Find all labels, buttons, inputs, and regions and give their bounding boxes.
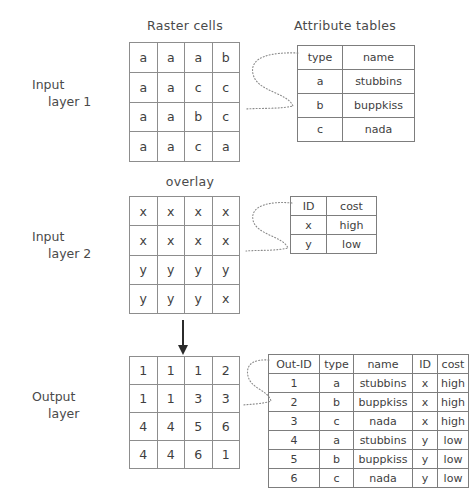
raster-cell: x bbox=[185, 197, 213, 226]
heading-raster-cells: Raster cells bbox=[125, 18, 245, 33]
table-row: astubbins bbox=[298, 70, 415, 94]
raster-cell: a bbox=[158, 43, 186, 73]
label-input-layer-2-line1: Input bbox=[32, 229, 64, 244]
raster-cell: c bbox=[185, 132, 213, 162]
raster-cell: a bbox=[213, 132, 241, 162]
table-cell: low bbox=[438, 450, 469, 469]
table-cell: c bbox=[320, 412, 354, 431]
raster-cell: y bbox=[158, 285, 186, 314]
overlay-arrow-shaft bbox=[182, 320, 184, 348]
table-row: 4astubbinsylow bbox=[269, 431, 469, 450]
table-row: 5bbuppkissylow bbox=[269, 450, 469, 469]
raster-cell: 3 bbox=[185, 385, 213, 413]
raster-cell: a bbox=[158, 132, 186, 162]
table-header-cell: Out-ID bbox=[269, 355, 320, 374]
connector-curve-output-layer bbox=[242, 357, 272, 413]
heading-attribute-tables: Attribute tables bbox=[281, 18, 409, 33]
raster-cell: b bbox=[213, 43, 241, 73]
table-cell: b bbox=[320, 450, 354, 469]
raster-cell: 1 bbox=[185, 357, 213, 385]
table-header-cell: cost bbox=[327, 197, 377, 216]
raster-cell: 1 bbox=[158, 357, 186, 385]
table-row: bbuppkiss bbox=[298, 94, 415, 118]
label-input-layer-2-line2: layer 2 bbox=[32, 245, 91, 262]
raster-cell: x bbox=[213, 226, 241, 255]
connector-curve-layer-1 bbox=[243, 48, 301, 116]
raster-cell: x bbox=[158, 226, 186, 255]
table-header-cell: type bbox=[320, 355, 354, 374]
table-header-cell: cost bbox=[438, 355, 469, 374]
table-cell: a bbox=[320, 374, 354, 393]
raster-cell: y bbox=[185, 285, 213, 314]
overlay-arrow-head bbox=[178, 345, 188, 355]
table-row: 6cnadaylow bbox=[269, 469, 469, 488]
label-input-layer-1: Input layer 1 bbox=[32, 76, 91, 110]
label-input-layer-1-line2: layer 1 bbox=[32, 93, 91, 110]
raster-cell: y bbox=[130, 285, 158, 314]
table-cell: x bbox=[413, 374, 438, 393]
table-cell: y bbox=[413, 431, 438, 450]
raster-cell: x bbox=[158, 197, 186, 226]
table-cell: buppkiss bbox=[354, 450, 413, 469]
raster-cell: y bbox=[158, 256, 186, 285]
label-output-layer: Output layer bbox=[32, 388, 79, 422]
table-row: 1astubbinsxhigh bbox=[269, 374, 469, 393]
raster-cell: 6 bbox=[213, 413, 241, 441]
table-row: xhigh bbox=[291, 216, 377, 235]
raster-cell: y bbox=[213, 256, 241, 285]
table-cell: y bbox=[291, 235, 327, 254]
raster-cell: c bbox=[185, 73, 213, 103]
raster-grid-input-layer-2: xxxxxxxxyyyyyyyx bbox=[129, 196, 240, 314]
table-cell: low bbox=[438, 431, 469, 450]
raster-cell: 5 bbox=[185, 413, 213, 441]
raster-cell: y bbox=[130, 256, 158, 285]
label-output-layer-line2: layer bbox=[32, 405, 79, 422]
raster-cell: 1 bbox=[130, 357, 158, 385]
table-cell: 4 bbox=[269, 431, 320, 450]
table-row: 2bbuppkissxhigh bbox=[269, 393, 469, 412]
raster-cell: a bbox=[158, 103, 186, 133]
raster-cell: y bbox=[185, 256, 213, 285]
raster-cell: x bbox=[130, 197, 158, 226]
attribute-table-output-layer: Out-IDtypenameIDcost1astubbinsxhigh2bbup… bbox=[268, 354, 469, 488]
table-header-row: IDcost bbox=[291, 197, 377, 216]
raster-cell: a bbox=[130, 43, 158, 73]
table-cell: buppkiss bbox=[354, 393, 413, 412]
table-cell: 6 bbox=[269, 469, 320, 488]
table-cell: 1 bbox=[269, 374, 320, 393]
label-input-layer-1-line1: Input bbox=[32, 77, 64, 92]
table-cell: b bbox=[298, 94, 343, 118]
table-cell: nada bbox=[343, 118, 415, 142]
raster-cell: x bbox=[185, 226, 213, 255]
raster-cell: c bbox=[213, 103, 241, 133]
raster-cell: a bbox=[158, 73, 186, 103]
table-cell: x bbox=[413, 412, 438, 431]
table-cell: stubbins bbox=[354, 374, 413, 393]
table-cell: a bbox=[320, 431, 354, 450]
table-cell: x bbox=[413, 393, 438, 412]
raster-cell: x bbox=[213, 197, 241, 226]
raster-cell: 4 bbox=[158, 441, 186, 469]
table-header-cell: ID bbox=[413, 355, 438, 374]
attribute-table-input-layer-1: typenameastubbinsbbuppkisscnada bbox=[297, 45, 415, 142]
raster-cell: 3 bbox=[213, 385, 241, 413]
raster-cell: b bbox=[185, 103, 213, 133]
raster-cell: 4 bbox=[158, 413, 186, 441]
raster-cell: a bbox=[130, 73, 158, 103]
raster-cell: x bbox=[213, 285, 241, 314]
table-header-cell: ID bbox=[291, 197, 327, 216]
table-row: 3cnadaxhigh bbox=[269, 412, 469, 431]
table-cell: x bbox=[291, 216, 327, 235]
raster-cell: 2 bbox=[213, 357, 241, 385]
table-cell: low bbox=[327, 235, 377, 254]
raster-grid-input-layer-1: aaabaaccaabcaaca bbox=[129, 42, 240, 162]
table-cell: stubbins bbox=[354, 431, 413, 450]
table-cell: high bbox=[327, 216, 377, 235]
table-cell: c bbox=[320, 469, 354, 488]
raster-cell: 4 bbox=[130, 441, 158, 469]
attribute-table-input-layer-2: IDcostxhighylow bbox=[290, 196, 377, 254]
table-cell: low bbox=[438, 469, 469, 488]
table-row: ylow bbox=[291, 235, 377, 254]
table-header-row: typename bbox=[298, 46, 415, 70]
